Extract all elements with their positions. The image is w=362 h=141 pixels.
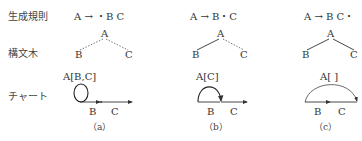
chart-c-edge-label: A[ ] <box>319 71 338 82</box>
chart-b: A[C] B C <box>195 71 247 117</box>
tree-c-right: C <box>350 49 358 60</box>
chart-c: A[ ] B C <box>305 71 357 117</box>
chart-b-node-c: C <box>230 106 238 117</box>
tree-b-left: B <box>192 49 199 60</box>
chart-a: A[B,C] B C <box>62 71 132 117</box>
tree-a: A B C <box>75 28 133 60</box>
diagram-canvas: A B C A B C A B C A[B,C] B C A[C] B C <box>0 0 362 141</box>
caption-b: （b） <box>204 120 228 133</box>
chart-c-node-c: C <box>338 106 346 117</box>
tree-a-root: A <box>100 28 109 39</box>
tree-b-right: C <box>240 49 248 60</box>
chart-a-edge-label: A[B,C] <box>62 71 96 82</box>
tree-b-root: A <box>216 28 225 39</box>
tree-c-root: A <box>326 28 335 39</box>
tree-a-left: B <box>75 49 82 60</box>
caption-c: （c） <box>314 120 337 133</box>
chart-a-node-b: B <box>89 106 96 117</box>
chart-b-edge-label: A[C] <box>195 71 219 82</box>
chart-b-node-b: B <box>207 106 214 117</box>
chart-c-node-b: B <box>314 106 321 117</box>
caption-a: （a） <box>88 120 111 133</box>
tree-c: A B C <box>302 28 358 60</box>
tree-a-right: C <box>125 49 133 60</box>
chart-a-node-c: C <box>111 106 119 117</box>
tree-c-left: B <box>302 49 309 60</box>
tree-b: A B C <box>192 28 248 60</box>
